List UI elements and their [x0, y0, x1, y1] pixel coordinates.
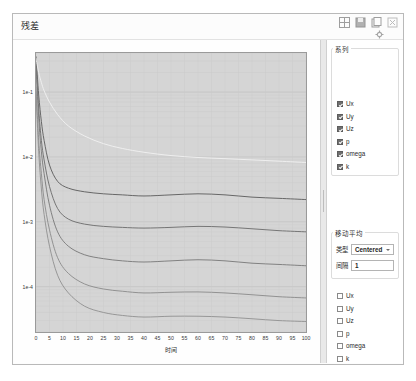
series-group: 系列 UxUyUzpomegak	[331, 48, 399, 176]
x-axis-tick-label: 65	[209, 335, 215, 341]
window-toolbar	[339, 17, 398, 28]
series-item-label: omega	[346, 151, 365, 157]
copy-icon[interactable]	[371, 17, 382, 28]
x-axis-tick-label: 60	[195, 335, 201, 341]
x-axis-tick-label: 15	[74, 335, 80, 341]
x-axis-tick-label: 90	[276, 335, 282, 341]
series-item-uy[interactable]: Uy	[337, 111, 365, 124]
checkbox-icon[interactable]	[337, 101, 343, 107]
window-toolbar-secondary	[375, 30, 384, 39]
x-axis-tick-label: 10	[60, 335, 66, 341]
close-icon[interactable]	[387, 17, 398, 28]
checkbox-icon[interactable]	[337, 151, 343, 157]
series-checkbox-list: UxUyUzpomegak	[337, 98, 365, 173]
series-item-omega[interactable]: omega	[337, 148, 365, 161]
chevron-down-icon	[386, 249, 390, 251]
x-axis-tick-label: 25	[101, 335, 107, 341]
series-item-label: Ux	[346, 101, 354, 107]
plot-area[interactable]	[35, 52, 307, 333]
residuals-window: 残差	[12, 13, 404, 365]
x-axis-tick-label: 35	[128, 335, 134, 341]
x-axis-tick-label: 30	[114, 335, 120, 341]
secondary-series-item-k[interactable]: k	[337, 353, 365, 366]
grid-layout-icon[interactable]	[339, 17, 350, 28]
checkbox-icon[interactable]	[337, 293, 343, 299]
x-axis-tick-label: 50	[168, 335, 174, 341]
moving-average-group-border	[331, 232, 399, 279]
checkbox-icon[interactable]	[337, 306, 343, 312]
secondary-series-item-label: omega	[346, 343, 365, 349]
x-axis-tick-label: 5	[48, 335, 51, 341]
x-axis-tick-label: 85	[263, 335, 269, 341]
x-axis-tick-label: 95	[290, 335, 296, 341]
moving-average-type-row: 类型 Centered	[336, 244, 394, 255]
checkbox-icon[interactable]	[337, 318, 343, 324]
x-axis-tick-label: 45	[155, 335, 161, 341]
series-item-label: Uz	[346, 126, 354, 132]
x-axis-tick-label: 100	[302, 335, 311, 341]
checkbox-icon[interactable]	[337, 114, 343, 120]
residual-line-chart	[36, 53, 306, 332]
series-item-uz[interactable]: Uz	[337, 123, 365, 136]
screen-root: 残差	[0, 0, 416, 381]
series-item-k[interactable]: k	[337, 161, 365, 174]
x-axis-tick-label: 75	[236, 335, 242, 341]
pane-splitter[interactable]	[320, 40, 327, 363]
secondary-series-item-uy[interactable]: Uy	[337, 303, 365, 316]
series-item-label: Uy	[346, 114, 354, 120]
x-axis-tick-label: 0	[35, 335, 38, 341]
series-item-p[interactable]: p	[337, 136, 365, 149]
secondary-series-item-label: p	[346, 331, 350, 337]
x-axis-tick-label: 40	[141, 335, 147, 341]
secondary-series-item-p[interactable]: p	[337, 328, 365, 341]
secondary-series-item-uz[interactable]: Uz	[337, 315, 365, 328]
x-axis-tick-label: 55	[182, 335, 188, 341]
window-titlebar: 残差	[13, 14, 403, 40]
settings-icon[interactable]	[375, 30, 384, 39]
moving-average-type-label: 类型	[336, 245, 348, 254]
save-image-icon[interactable]	[355, 17, 366, 28]
checkbox-icon[interactable]	[337, 356, 343, 362]
series-item-label: k	[346, 164, 349, 170]
checkbox-icon[interactable]	[337, 126, 343, 132]
checkbox-icon[interactable]	[337, 164, 343, 170]
options-sidebar: 系列 UxUyUzpomegak 移动平均 类型 Centered 间隔 1	[327, 40, 403, 363]
moving-average-group-title: 移动平均	[333, 228, 365, 238]
checkbox-icon[interactable]	[337, 139, 343, 145]
moving-average-interval-label: 间隔	[336, 261, 348, 270]
moving-average-interval-input[interactable]: 1	[351, 260, 394, 271]
moving-average-interval-row: 间隔 1	[336, 260, 394, 271]
secondary-series-item-ux[interactable]: Ux	[337, 290, 365, 303]
y-axis-tick-label: 1e-2	[23, 154, 33, 160]
secondary-series-item-label: Uz	[346, 318, 354, 324]
x-axis-title: 时间	[35, 345, 307, 354]
secondary-series-item-label: Uy	[346, 306, 354, 312]
x-axis-tick-label: 70	[222, 335, 228, 341]
splitter-grip	[323, 190, 324, 212]
x-axis-ticks: 0510152025303540455055606570758085909510…	[35, 335, 307, 345]
moving-average-type-select[interactable]: Centered	[351, 244, 394, 255]
secondary-series-item-label: k	[346, 356, 349, 362]
x-axis-tick-label: 20	[87, 335, 93, 341]
checkbox-icon[interactable]	[337, 331, 343, 337]
moving-average-interval-value: 1	[352, 262, 359, 269]
chart-pane: 1e-11e-21e-31e-4 05101520253035404550556…	[14, 40, 320, 363]
secondary-series-item-omega[interactable]: omega	[337, 340, 365, 353]
moving-average-group: 移动平均 类型 Centered 间隔 1	[331, 232, 399, 279]
y-axis-tick-label: 1e-1	[23, 89, 33, 95]
window-title: 残差	[21, 19, 39, 32]
checkbox-icon[interactable]	[337, 343, 343, 349]
x-axis-tick-label: 80	[249, 335, 255, 341]
series-group-title: 系列	[333, 44, 351, 54]
y-axis-tick-label: 1e-4	[23, 284, 33, 290]
series-item-ux[interactable]: Ux	[337, 98, 365, 111]
y-axis-tick-label: 1e-3	[23, 219, 33, 225]
moving-average-type-value: Centered	[352, 246, 382, 253]
series-item-label: p	[346, 139, 350, 145]
y-axis-ticks: 1e-11e-21e-31e-4	[14, 52, 33, 333]
secondary-series-checkbox-list: UxUyUzpomegak	[337, 290, 365, 365]
secondary-series-item-label: Ux	[346, 293, 354, 299]
